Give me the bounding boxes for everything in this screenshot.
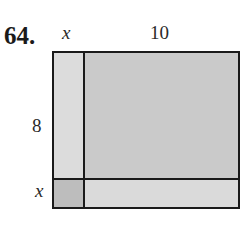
label-width-x: x [62,22,70,44]
problem-number: 64. [4,22,35,50]
region-x-by-8 [54,53,85,178]
region-x-by-x [54,178,85,207]
region-10-by-x [85,178,238,207]
area-rectangle [52,51,240,209]
region-10-by-8 [85,53,238,178]
label-height-8: 8 [32,115,42,137]
label-height-x: x [35,180,43,202]
label-width-10: 10 [150,22,169,44]
